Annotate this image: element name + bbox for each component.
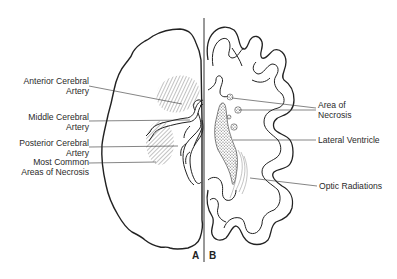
- label-posterior-cerebral-artery: Posterior Cerebral Artery: [10, 139, 89, 158]
- label-leader-lines: [89, 86, 317, 186]
- label-line: Artery: [18, 87, 89, 97]
- necrosis-zone-posterior: [146, 121, 174, 165]
- label-line: Areas of Necrosis: [10, 168, 89, 178]
- label-line: Artery: [18, 123, 89, 133]
- panel-label-b: B: [209, 250, 216, 261]
- lateral-ventricle-shape: [215, 103, 238, 185]
- label-line: Lateral Ventricle: [318, 135, 380, 145]
- label-lateral-ventricle: Lateral Ventricle: [318, 136, 380, 146]
- label-optic-radiations: Optic Radiations: [319, 182, 382, 192]
- label-area-of-necrosis: Area of Necrosis: [318, 101, 351, 120]
- label-most-common-areas-of-necrosis: Most Common Areas of Necrosis: [10, 158, 89, 177]
- panel-label-a: A: [192, 250, 199, 261]
- label-anterior-cerebral-artery: Anterior Cerebral Artery: [18, 77, 89, 96]
- label-line: Necrosis: [318, 111, 351, 121]
- necrosis-spots: [227, 94, 241, 130]
- label-middle-cerebral-artery: Middle Cerebral Artery: [18, 113, 89, 132]
- necrosis-zone-anterior: [151, 70, 205, 119]
- label-line: Optic Radiations: [319, 181, 382, 191]
